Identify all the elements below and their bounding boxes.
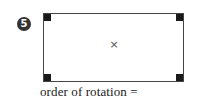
corner-square-bottom-left: [44, 74, 51, 81]
center-cross-icon: ×: [109, 40, 119, 50]
question-number-badge: 5: [17, 17, 31, 31]
corner-square-top-right: [176, 14, 183, 21]
corner-square-top-left: [44, 14, 51, 21]
order-of-rotation-label: order of rotation =: [40, 84, 138, 100]
corner-square-bottom-right: [176, 74, 183, 81]
